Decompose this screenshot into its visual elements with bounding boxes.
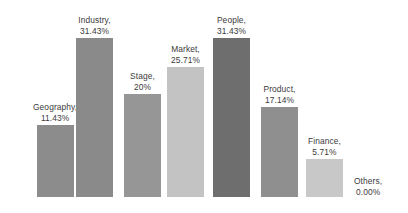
bar-data-label: People,31.43% (217, 15, 246, 36)
bar-rect (37, 125, 74, 197)
bar-value-label: 25.71% (171, 55, 200, 66)
bar-data-label: Geography,11.43% (33, 102, 77, 123)
bar-rect (124, 94, 161, 197)
bar-group: Market,25.71% (167, 44, 204, 197)
bar-chart: Geography,11.43%Industry,31.43%Stage,20%… (0, 0, 408, 213)
bar-group: People,31.43% (213, 15, 250, 197)
bar-category-label: Product, (264, 84, 296, 95)
bar-category-label: Industry, (78, 15, 110, 26)
bar-category-label: Geography, (33, 102, 77, 113)
bar-rect (76, 38, 113, 197)
bar-category-label: Finance, (308, 136, 341, 147)
bar-group: Product,17.14% (261, 84, 298, 197)
bar-data-label: Market,25.71% (171, 44, 200, 65)
bar-group: Others,0.00% (354, 176, 382, 197)
chart-plot-area: Geography,11.43%Industry,31.43%Stage,20%… (0, 0, 408, 213)
bar-category-label: Market, (171, 44, 200, 55)
bar-value-label: 17.14% (264, 95, 296, 106)
bar-value-label: 0.00% (354, 187, 382, 198)
bar-data-label: Product,17.14% (264, 84, 296, 105)
bar-data-label: Others,0.00% (354, 176, 382, 197)
bar-value-label: 31.43% (78, 26, 110, 37)
bar-data-label: Stage,20% (130, 71, 155, 92)
bar-data-label: Finance,5.71% (308, 136, 341, 157)
bar-category-label: People, (217, 15, 246, 26)
bar-rect (167, 67, 204, 197)
bar-value-label: 20% (130, 82, 155, 93)
bar-group: Finance,5.71% (306, 136, 343, 197)
bar-group: Stage,20% (124, 71, 161, 197)
bar-rect (306, 159, 343, 197)
bar-value-label: 11.43% (33, 113, 77, 124)
bar-group: Industry,31.43% (76, 15, 113, 197)
bar-value-label: 31.43% (217, 26, 246, 37)
bar-group: Geography,11.43% (33, 102, 77, 197)
bar-category-label: Stage, (130, 71, 155, 82)
bar-value-label: 5.71% (308, 147, 341, 158)
bar-rect (213, 38, 250, 197)
bar-category-label: Others, (354, 176, 382, 187)
bar-data-label: Industry,31.43% (78, 15, 110, 36)
bar-rect (261, 107, 298, 197)
